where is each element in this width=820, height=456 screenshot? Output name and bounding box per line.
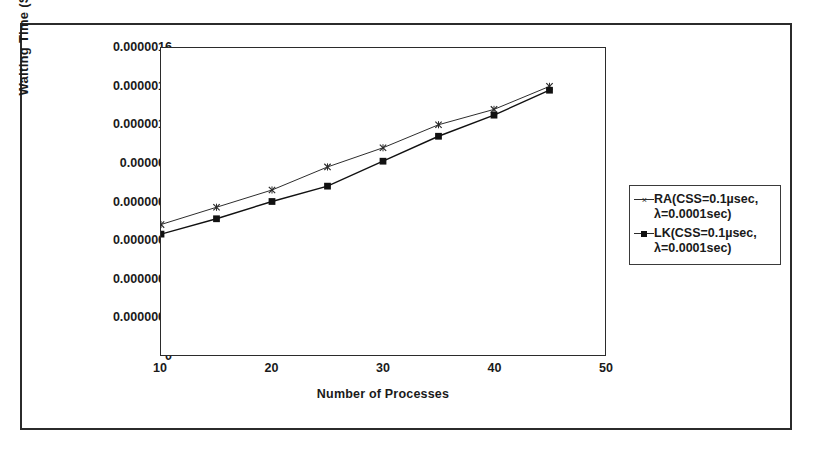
data-point-square <box>491 112 498 119</box>
legend-label-ra: RA(CSS=0.1µsec, λ=0.0001sec) <box>654 192 758 222</box>
x-axis-tick-labels: 1020304050 <box>160 361 606 381</box>
square-marker-icon <box>634 227 654 241</box>
x-axis-tick-label: 20 <box>265 361 279 375</box>
series-canvas <box>161 48 605 355</box>
legend-item-ra: × RA(CSS=0.1µsec, λ=0.0001sec) <box>634 192 775 222</box>
cross-marker-icon: × <box>634 193 654 207</box>
figure-frame: Waiting Time (Sec) 00.00000020.00000040.… <box>20 23 792 430</box>
x-axis-tick-label: 10 <box>153 361 167 375</box>
data-point-square <box>435 133 442 140</box>
data-point-cross <box>380 144 386 151</box>
x-axis-tick-label: 30 <box>376 361 390 375</box>
data-point-square <box>324 183 331 190</box>
data-point-cross <box>435 121 441 128</box>
x-axis-tick-label: 40 <box>488 361 502 375</box>
chart-figure: Waiting Time (Sec) 00.00000020.00000040.… <box>0 0 820 456</box>
x-axis-tick-label: 50 <box>599 361 613 375</box>
data-point-cross <box>269 186 275 193</box>
data-point-square <box>213 215 220 222</box>
y-axis-title: Waiting Time (Sec) <box>16 0 36 135</box>
legend-item-lk: LK(CSS=0.1µsec, λ=0.0001sec) <box>634 226 775 256</box>
data-point-square <box>269 198 276 205</box>
y-axis-title-label: Waiting Time (Sec) <box>16 0 31 135</box>
legend-label-lk: LK(CSS=0.1µsec, λ=0.0001sec) <box>654 226 757 256</box>
data-point-square <box>380 158 387 165</box>
data-point-square <box>546 87 553 94</box>
x-axis-title: Number of Processes <box>160 387 606 401</box>
data-point-square <box>161 231 164 238</box>
legend: × RA(CSS=0.1µsec, λ=0.0001sec) LK(CSS=0.… <box>629 185 781 265</box>
data-point-cross <box>324 163 330 170</box>
data-point-cross <box>213 204 219 211</box>
plot-area <box>160 47 606 356</box>
